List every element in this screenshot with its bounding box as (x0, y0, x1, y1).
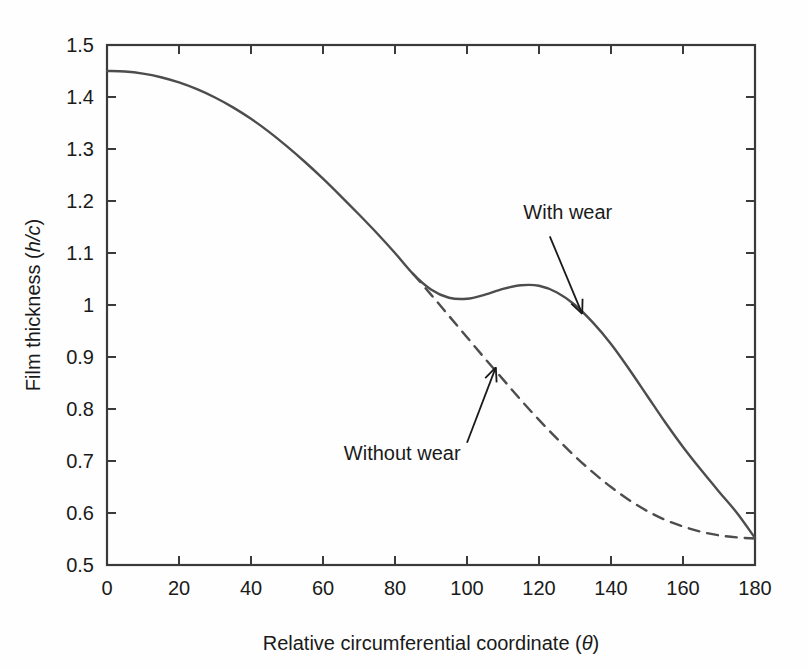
figure-container: 020406080100120140160180 0.50.60.70.80.9… (0, 0, 807, 670)
y-tick-label-0.6: 0.6 (66, 502, 94, 524)
x-axis-title: Relative circumferential coordinate (θ) (263, 632, 600, 654)
y-tick-label-1.2: 1.2 (66, 190, 94, 212)
plot-border (107, 45, 755, 565)
y-axis-tick-labels: 0.50.60.70.80.911.11.21.31.41.5 (66, 34, 94, 576)
y-tick-label-1.5: 1.5 (66, 34, 94, 56)
y-tick-label-0.9: 0.9 (66, 346, 94, 368)
x-tick-label-120: 120 (522, 577, 555, 599)
x-tick-label-0: 0 (101, 577, 112, 599)
y-tick-label-1.1: 1.1 (66, 242, 94, 264)
x-axis-title-symbol: θ (582, 632, 593, 654)
x-axis-ticks-top (107, 45, 755, 54)
y-axis-title-main: Film thickness ( (22, 252, 44, 391)
y-tick-label-0.7: 0.7 (66, 450, 94, 472)
y-axis-ticks-left (107, 45, 116, 565)
x-tick-label-160: 160 (666, 577, 699, 599)
x-axis-title-main: Relative circumferential coordinate ( (263, 632, 582, 654)
x-axis-title-close: ) (593, 632, 600, 654)
y-axis-title-group: Film thickness (h/c) (22, 219, 44, 391)
x-axis-ticks-bottom (107, 556, 755, 565)
y-tick-label-1.3: 1.3 (66, 138, 94, 160)
y-tick-label-0.8: 0.8 (66, 398, 94, 420)
y-axis-title-symbol: h/c (22, 226, 44, 253)
plot-frame (107, 45, 755, 565)
y-tick-label-0.5: 0.5 (66, 554, 94, 576)
y-axis-ticks-right (746, 45, 755, 565)
annotation-arrow-shaft-with-wear (550, 236, 582, 313)
x-axis-tick-labels: 020406080100120140160180 (101, 577, 771, 599)
x-tick-label-60: 60 (312, 577, 334, 599)
film-thickness-line-chart: 020406080100120140160180 0.50.60.70.80.9… (0, 0, 807, 670)
x-tick-label-100: 100 (450, 577, 483, 599)
y-tick-label-1: 1 (83, 294, 94, 316)
y-tick-label-1.4: 1.4 (66, 86, 94, 108)
x-tick-label-180: 180 (738, 577, 771, 599)
data-series-group (107, 71, 755, 538)
y-axis-title-close: ) (22, 219, 44, 226)
x-tick-label-80: 80 (384, 577, 406, 599)
y-axis-title: Film thickness (h/c) (22, 219, 44, 391)
x-tick-label-20: 20 (168, 577, 190, 599)
x-tick-label-140: 140 (594, 577, 627, 599)
series-line-with-wear (107, 71, 755, 538)
annotation-arrow-head-0 (496, 367, 497, 382)
annotation-arrow-shaft-without-wear (467, 367, 496, 442)
x-tick-label-40: 40 (240, 577, 262, 599)
annotation-label-with-wear: With wear (523, 201, 612, 223)
annotation-label-without-wear: Without wear (344, 442, 461, 464)
